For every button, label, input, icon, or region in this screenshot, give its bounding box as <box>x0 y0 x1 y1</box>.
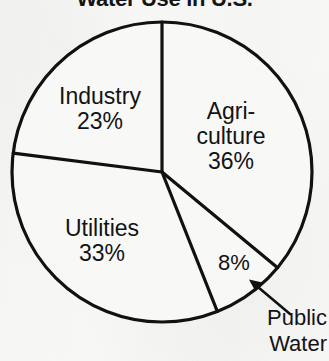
utilities-name: Utilities <box>38 216 166 241</box>
utilities-value: 33% <box>38 241 166 266</box>
industry-value: 23% <box>36 109 164 134</box>
pie-chart-figure: Water Use in U.S. Industry 23% Agri- cul… <box>0 0 329 361</box>
slice-label-industry: Industry 23% <box>36 84 164 134</box>
public-water-line2: Water <box>229 331 327 357</box>
slice-label-agriculture: Agri- culture 36% <box>178 99 284 174</box>
callout-label-public-water: Public Water <box>229 305 327 357</box>
slice-label-public-value: 8% <box>206 250 262 275</box>
agriculture-name-line1: Agri- <box>178 99 284 124</box>
agriculture-name-line2: culture <box>178 124 284 149</box>
industry-name: Industry <box>36 84 164 109</box>
agriculture-value: 36% <box>178 149 284 174</box>
slice-label-utilities: Utilities 33% <box>38 216 166 266</box>
public-water-line1: Public <box>229 305 327 331</box>
